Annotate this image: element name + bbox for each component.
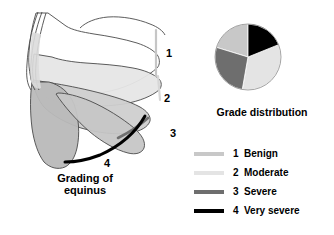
callout-grade-1: 1 [166, 48, 172, 59]
legend-label-very-severe: Very severe [244, 203, 300, 218]
toe-contour-grade-1 [80, 17, 165, 35]
legend-swatch-very-severe [194, 209, 224, 213]
pie-chart-title: Grade distribution [193, 106, 331, 118]
legend-number-benign: 1 [233, 146, 239, 161]
legend-label-severe: Severe [244, 184, 277, 199]
callout-grade-4: 4 [104, 158, 110, 169]
legend-number-very-severe: 4 [233, 203, 239, 218]
callout-grade-2: 2 [164, 93, 170, 104]
grade-distribution-pie [213, 22, 283, 92]
legend-number-moderate: 2 [233, 165, 239, 180]
legend-swatch-benign [194, 152, 224, 156]
grade-distribution-panel: Grade distribution 1 Benign 2 Moderate 3… [193, 18, 334, 228]
grading-caption: Grading of equinus [20, 172, 150, 196]
legend-item-very-severe[interactable]: 4 Very severe [193, 203, 334, 222]
callout-grade-3: 3 [170, 128, 176, 139]
legend-label-benign: Benign [244, 146, 278, 161]
legend-swatch-moderate [194, 171, 224, 175]
legend-number-severe: 3 [233, 184, 239, 199]
legend-item-moderate[interactable]: 2 Moderate [193, 165, 334, 184]
grading-caption-line-2: equinus [20, 184, 150, 196]
legend-item-severe[interactable]: 3 Severe [193, 184, 334, 203]
legend-label-moderate: Moderate [244, 165, 288, 180]
grade-legend: 1 Benign 2 Moderate 3 Severe 4 Very seve… [193, 146, 334, 222]
legend-item-benign[interactable]: 1 Benign [193, 146, 334, 165]
pie-svg [213, 22, 283, 92]
grading-caption-line-1: Grading of [20, 172, 150, 184]
legend-swatch-severe [194, 190, 224, 194]
figure-root: 1 2 3 4 Grading of equinus Grade distrib… [0, 0, 334, 235]
